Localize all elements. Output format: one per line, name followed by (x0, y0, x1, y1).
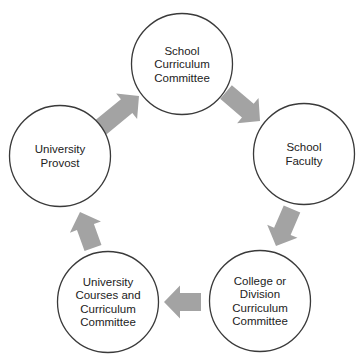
cycle-diagram: SchoolCurriculumCommitteeSchoolFacultyCo… (0, 0, 363, 364)
node-college-division-curriculum-committee: College orDivisionCurriculumCommittee (210, 251, 311, 352)
node-school-curriculum-committee: SchoolCurriculumCommittee (132, 14, 233, 115)
node-label-line: Division (240, 288, 280, 300)
node-label-line: Faculty (285, 155, 322, 167)
node-label-line: University (35, 143, 86, 155)
node-label: UniversityProvost (35, 143, 86, 169)
arrow-university-courses-curriculum-committee-to-university-provost (64, 206, 108, 253)
node-label-line: Committee (154, 72, 210, 84)
node-university-provost: UniversityProvost (10, 106, 111, 207)
node-label-line: Provost (41, 157, 81, 169)
node-label-line: Committee (232, 315, 288, 327)
node-label-line: Curriculum (154, 58, 210, 70)
node-label-line: Courses and (75, 289, 140, 301)
arrow-school-faculty-to-college-division-curriculum-committee (261, 202, 307, 252)
node-label: College orDivisionCurriculumCommittee (232, 275, 288, 328)
node-label-line: School (164, 45, 199, 57)
node-label-line: School (286, 141, 321, 153)
node-label: UniversityCourses andCurriculumCommittee (75, 276, 140, 329)
arrow-college-division-curriculum-committee-to-university-courses-curriculum-committee (164, 286, 201, 319)
node-university-courses-curriculum-committee: UniversityCourses andCurriculumCommittee (58, 252, 159, 353)
node-label-line: Committee (80, 316, 136, 328)
node-label-line: University (83, 276, 134, 288)
node-label: SchoolFaculty (285, 141, 322, 167)
node-school-faculty: SchoolFaculty (254, 104, 355, 205)
node-label-line: Curriculum (232, 302, 288, 314)
node-label-line: Curriculum (80, 303, 136, 315)
node-label-line: College or (234, 275, 287, 287)
